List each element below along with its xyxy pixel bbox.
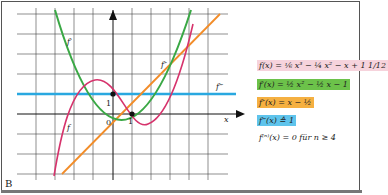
origin-label: 0 (106, 118, 111, 127)
label-f3: f‴ (216, 82, 223, 91)
x-axis-arrow-icon (236, 110, 245, 118)
label-f2: f″ (161, 60, 167, 69)
label-f1: f′ (67, 37, 72, 46)
point-0-1 (110, 91, 115, 96)
y-tick-label: 1 (106, 99, 111, 108)
formula-f2: f″(x) = x − ½ (257, 97, 314, 108)
point-1-0 (129, 111, 134, 116)
x-tick-label: 1 (128, 117, 133, 126)
y-axis-arrow-icon (109, 10, 117, 20)
x-axis-label: x (224, 115, 229, 124)
figure-label: B (5, 178, 12, 189)
formula-f: f(x) = ⅙ x³ − ¼ x² − x + 1 1/12 (257, 60, 388, 71)
formula-f1: f′(x) = ½ x² − ½ x − 1 (257, 79, 350, 90)
label-f: f (67, 123, 70, 132)
formula-fn: f⁽ⁿ⁾(x) = 0 für n ≥ 4 (257, 132, 338, 143)
curve-f (54, 24, 193, 176)
formula-f3: f‴(x) ≙ 1 (257, 115, 296, 126)
